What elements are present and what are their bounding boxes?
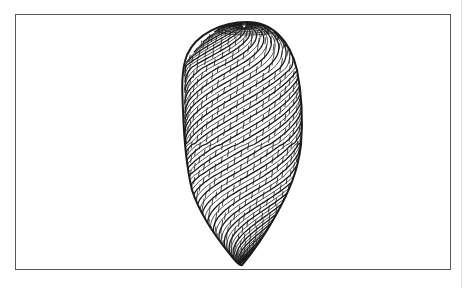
mesh-lines (181, 22, 303, 265)
spiral-shell-wireframe (0, 0, 467, 288)
